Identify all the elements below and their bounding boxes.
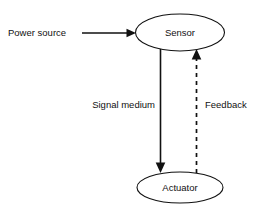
diagram-svg: Sensor Actuator Power source Signal medi… [0,0,263,207]
power-source-label: Power source [8,27,66,38]
actuator-label: Actuator [162,182,197,193]
diagram-canvas: Sensor Actuator Power source Signal medi… [0,0,263,207]
power-source-edge [82,29,136,38]
signal-medium-edge [156,48,166,173]
feedback-label: Feedback [205,99,247,110]
signal-medium-label: Signal medium [92,99,155,110]
node-sensor[interactable]: Sensor [136,14,225,51]
sensor-label: Sensor [165,27,195,38]
signal-medium-arrowhead-icon [156,163,166,174]
feedback-edge [192,49,202,173]
power-source-arrowhead-icon [127,29,137,38]
node-actuator[interactable]: Actuator [137,172,223,203]
